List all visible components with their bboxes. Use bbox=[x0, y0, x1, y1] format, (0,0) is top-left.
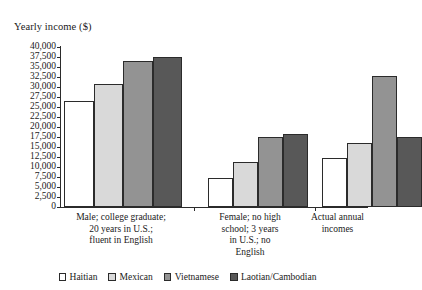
bar[interactable] bbox=[347, 143, 372, 207]
x-axis-group-separator-tick bbox=[194, 207, 195, 211]
bar[interactable] bbox=[258, 137, 283, 207]
y-axis-tick-mark bbox=[57, 207, 61, 208]
legend-swatch-icon bbox=[59, 273, 67, 281]
y-axis-tick-mark bbox=[57, 147, 61, 148]
legend-label: Haitian bbox=[70, 272, 98, 282]
bar-group-bars bbox=[322, 47, 422, 207]
bar[interactable] bbox=[322, 158, 347, 207]
x-axis-category-label-line: school; 3 years bbox=[192, 224, 308, 236]
x-axis-category-label-line: incomes bbox=[300, 224, 375, 236]
x-axis-category-label-line: Female; no high bbox=[192, 212, 308, 224]
legend-item-haitian[interactable]: Haitian bbox=[59, 272, 98, 282]
y-axis-tick-mark bbox=[57, 157, 61, 158]
chart-legend: HaitianMexicanVietnameseLaotian/Cambodia… bbox=[0, 272, 375, 282]
x-axis-group-separator-tick bbox=[315, 207, 316, 211]
x-axis-line bbox=[60, 207, 368, 208]
bar-group-3 bbox=[322, 47, 422, 207]
legend-label: Laotian/Cambodian bbox=[241, 272, 316, 282]
bar[interactable] bbox=[372, 76, 397, 207]
bar[interactable] bbox=[397, 137, 422, 207]
bar[interactable] bbox=[233, 162, 258, 207]
y-axis-tick-mark bbox=[57, 167, 61, 168]
y-axis-tick-mark bbox=[57, 87, 61, 88]
y-axis-tick-mark bbox=[57, 77, 61, 78]
y-axis-tick-mark bbox=[57, 137, 61, 138]
y-axis-tick-label: 0 bbox=[51, 202, 56, 212]
plot-area bbox=[60, 47, 368, 207]
bar[interactable] bbox=[153, 57, 183, 207]
bar-group-1 bbox=[64, 47, 182, 207]
legend-swatch-icon bbox=[230, 273, 238, 281]
x-axis-category-label-line: Actual annual bbox=[300, 212, 375, 224]
legend-item-vietnamese[interactable]: Vietnamese bbox=[164, 272, 219, 282]
bar[interactable] bbox=[123, 61, 153, 207]
y-axis-tick-mark bbox=[57, 127, 61, 128]
y-axis-tick-mark bbox=[57, 67, 61, 68]
bar[interactable] bbox=[64, 101, 94, 207]
x-axis-category-label-line: 20 years in U.S.; bbox=[50, 224, 192, 236]
bar-group-bars bbox=[208, 47, 308, 207]
legend-label: Mexican bbox=[119, 272, 152, 282]
legend-label: Vietnamese bbox=[175, 272, 219, 282]
bar[interactable] bbox=[283, 134, 308, 207]
bar-group-2 bbox=[208, 47, 308, 207]
x-axis-category-label-2: Female; no highschool; 3 yearsin U.S.; n… bbox=[192, 212, 308, 258]
x-axis-category-label-3: Actual annualincomes bbox=[300, 212, 375, 235]
y-axis-tick-mark bbox=[57, 117, 61, 118]
x-axis-category-label-1: Male; college graduate;20 years in U.S.;… bbox=[50, 212, 192, 247]
y-axis-tick-mark bbox=[57, 187, 61, 188]
x-axis-category-label-line: in U.S.; no bbox=[192, 235, 308, 247]
x-axis-category-label-line: English bbox=[192, 247, 308, 259]
x-axis-category-label-line: Male; college graduate; bbox=[50, 212, 192, 224]
legend-item-laotian-cambodian[interactable]: Laotian/Cambodian bbox=[230, 272, 316, 282]
legend-item-mexican[interactable]: Mexican bbox=[108, 272, 152, 282]
bar[interactable] bbox=[94, 84, 124, 207]
y-axis-tick-mark bbox=[57, 177, 61, 178]
y-axis-tick-mark bbox=[57, 97, 61, 98]
legend-swatch-icon bbox=[108, 273, 116, 281]
x-axis-category-label-line: fluent in English bbox=[50, 235, 192, 247]
y-axis-tick-mark bbox=[57, 47, 61, 48]
bar[interactable] bbox=[208, 178, 233, 207]
y-axis-tick-labels: 40,00037,50035,00032,50030,00027,50025,0… bbox=[0, 0, 56, 290]
y-axis-tick-mark bbox=[57, 197, 61, 198]
bar-group-bars bbox=[64, 47, 182, 207]
y-axis-tick-mark bbox=[57, 57, 61, 58]
legend-swatch-icon bbox=[164, 273, 172, 281]
y-axis-tick-mark bbox=[57, 107, 61, 108]
